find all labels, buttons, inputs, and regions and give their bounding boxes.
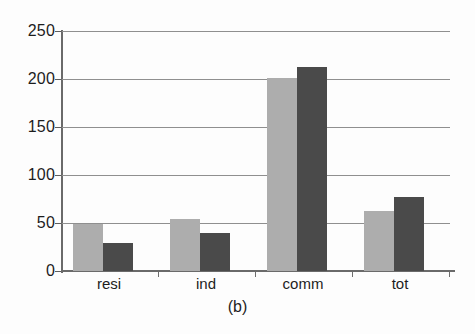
y-tick-label-0: 0 bbox=[0, 263, 55, 279]
x-category-label-tot: tot bbox=[364, 275, 436, 292]
gridline-200 bbox=[62, 79, 450, 80]
bar-resi-series-1 bbox=[73, 224, 103, 271]
x-tick-mark-2 bbox=[255, 272, 256, 277]
figure-panel-b: 250 200 150 100 50 0 resi ind comm bbox=[0, 0, 475, 334]
figure-caption: (b) bbox=[0, 298, 475, 316]
x-tick-mark-4 bbox=[449, 272, 450, 277]
bar-ind-series-1 bbox=[170, 219, 200, 271]
gridline-250 bbox=[62, 31, 450, 32]
y-tick-label-50: 50 bbox=[0, 215, 55, 231]
y-tick-label-200: 200 bbox=[0, 71, 55, 87]
x-category-label-resi: resi bbox=[73, 275, 145, 292]
x-tick-mark-3 bbox=[352, 272, 353, 277]
x-tick-mark-1 bbox=[158, 272, 159, 277]
gridline-150 bbox=[62, 127, 450, 128]
y-tick-label-250: 250 bbox=[0, 23, 55, 39]
bar-ind-series-2 bbox=[200, 233, 230, 271]
bar-comm-series-1 bbox=[267, 78, 297, 271]
bar-comm-series-2 bbox=[297, 67, 327, 271]
plot-area bbox=[62, 31, 450, 271]
y-tick-label-100: 100 bbox=[0, 167, 55, 183]
x-category-label-ind: ind bbox=[170, 275, 242, 292]
bar-tot-series-1 bbox=[364, 211, 394, 271]
gridline-100 bbox=[62, 175, 450, 176]
y-tick-label-150: 150 bbox=[0, 119, 55, 135]
x-category-label-comm: comm bbox=[267, 275, 339, 292]
bar-resi-series-2 bbox=[103, 243, 133, 271]
bar-tot-series-2 bbox=[394, 197, 424, 271]
